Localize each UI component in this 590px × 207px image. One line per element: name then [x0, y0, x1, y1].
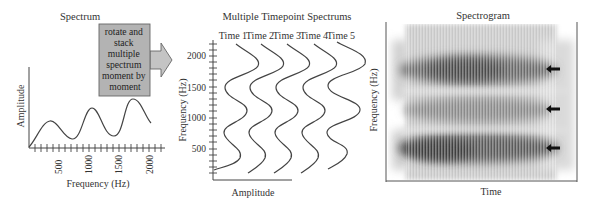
timepoints-panel: Multiple Timepoint Spectrums Time 1 Time…: [177, 11, 365, 198]
ytick-500: 500: [192, 144, 207, 154]
time-label-3: Time 3: [273, 30, 301, 41]
time-1-spectrum: [214, 44, 259, 170]
time-3-spectrum: [274, 44, 310, 173]
time-label-5: Time 5: [327, 30, 355, 41]
time-2-spectrum: [248, 44, 284, 173]
transform-annotation: rotate and stack multiple spectrum momen…: [99, 24, 172, 96]
spectrum-title: Spectrum: [60, 11, 100, 22]
spectrogram-y-label: Frequency (Hz): [368, 68, 380, 131]
spectrum-xtick-2000: 2000: [145, 155, 155, 174]
spectrogram-panel: Spectrogram Fr: [368, 10, 577, 197]
spectrum-x-label: Frequency (Hz): [66, 178, 129, 190]
ytick-1000: 1000: [187, 113, 206, 123]
spectrogram-title: Spectrogram: [456, 10, 510, 21]
timepoints-y-tick-labels: 2000 1500 1000 500: [187, 51, 206, 154]
spectrum-xtick-1500: 1500: [114, 155, 124, 174]
figure: Spectrum 500 1000 1500 2000 Frequency (H…: [0, 0, 590, 207]
timepoint-spectra: [214, 42, 365, 173]
spectrum-curve: [29, 99, 151, 147]
time-label-4: Time 4: [300, 30, 328, 41]
timepoints-title: Multiple Timepoint Spectrums: [223, 11, 352, 22]
spectrum-xtick-500: 500: [54, 160, 64, 175]
timepoints-y-label: Frequency (Hz): [177, 78, 189, 141]
spectrum-xtick-1000: 1000: [84, 155, 94, 174]
time-labels: Time 1 Time 2 Time 3 Time 4 Time 5: [219, 30, 355, 41]
ytick-1500: 1500: [187, 83, 206, 93]
spectrum-y-label: Amplitude: [15, 84, 26, 127]
time-label-2: Time 2: [246, 30, 274, 41]
right-arrow-icon: [150, 43, 172, 77]
spectrogram-x-label: Time: [481, 186, 502, 197]
spectrogram-image: [392, 24, 574, 180]
timepoints-x-label: Amplitude: [232, 187, 275, 198]
time-4-spectrum: [301, 44, 337, 173]
time-label-1: Time 1: [219, 30, 247, 41]
time-5-spectrum: [327, 42, 366, 169]
ytick-2000: 2000: [187, 51, 206, 61]
